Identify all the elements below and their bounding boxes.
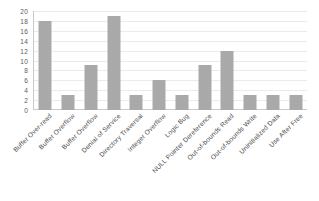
bar-slot xyxy=(171,11,194,110)
y-tick-label: 20 xyxy=(20,8,28,15)
bar-slot xyxy=(239,11,262,110)
y-tick-label: 0 xyxy=(24,107,28,114)
bar-slot xyxy=(284,11,307,110)
bar-slot xyxy=(34,11,57,110)
bar[interactable] xyxy=(198,65,211,110)
x-tick-label: Uninitialized Data xyxy=(238,112,282,156)
bar-slot xyxy=(216,11,239,110)
bar[interactable] xyxy=(107,16,120,110)
bar[interactable] xyxy=(266,95,279,110)
bar[interactable] xyxy=(221,51,234,110)
bar[interactable] xyxy=(130,95,143,110)
bar[interactable] xyxy=(62,95,75,110)
bar[interactable] xyxy=(175,95,188,110)
y-tick-label: 12 xyxy=(20,47,28,54)
x-tick-label: Buffer Over-read xyxy=(12,112,54,154)
bar-slot xyxy=(193,11,216,110)
y-tick-label: 6 xyxy=(24,77,28,84)
bar-chart: 02468101214161820 Buffer Over-readBuffer… xyxy=(0,0,319,201)
x-axis: Buffer Over-readBuffer OverflowBuffer Ov… xyxy=(34,112,307,201)
y-tick-label: 10 xyxy=(20,57,28,64)
bar[interactable] xyxy=(39,21,52,110)
y-tick-label: 16 xyxy=(20,27,28,34)
bar-slot xyxy=(80,11,103,110)
y-tick-label: 14 xyxy=(20,37,28,44)
bar[interactable] xyxy=(289,95,302,110)
y-tick-label: 8 xyxy=(24,67,28,74)
bar-slot xyxy=(262,11,285,110)
y-tick-label: 2 xyxy=(24,97,28,104)
bar-slot xyxy=(57,11,80,110)
bar-slot xyxy=(125,11,148,110)
y-axis: 02468101214161820 xyxy=(0,11,31,110)
bar-slot xyxy=(102,11,125,110)
bars-layer xyxy=(34,11,307,110)
bar-slot xyxy=(148,11,171,110)
y-tick-label: 18 xyxy=(20,17,28,24)
bar[interactable] xyxy=(84,65,97,110)
bar[interactable] xyxy=(244,95,257,110)
y-tick-label: 4 xyxy=(24,87,28,94)
bar[interactable] xyxy=(153,80,166,110)
